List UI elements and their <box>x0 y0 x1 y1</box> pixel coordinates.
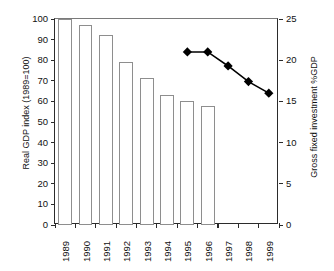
x-tick-label: 1997 <box>223 232 234 271</box>
line-series <box>55 19 279 225</box>
tick-label: 0 <box>286 219 316 230</box>
tick-label: 25 <box>286 13 316 24</box>
tick-mark <box>279 225 283 226</box>
tick-label: 30 <box>18 157 48 168</box>
series-line <box>187 52 268 93</box>
x-tick-label: 1994 <box>162 232 173 271</box>
chart-figure: Real GDP index (1989=100) Gross fixed in… <box>0 0 334 271</box>
tick-label: 50 <box>18 116 48 127</box>
tick-mark <box>279 101 283 102</box>
tick-label: 0 <box>18 219 48 230</box>
x-tick-label: 1999 <box>263 232 274 271</box>
tick-label: 40 <box>18 137 48 148</box>
x-tick-label: 1992 <box>121 232 132 271</box>
tick-label: 60 <box>18 95 48 106</box>
tick-mark <box>279 60 283 61</box>
tick-label: 5 <box>286 178 316 189</box>
x-tick-label: 1995 <box>182 232 193 271</box>
tick-label: 100 <box>18 13 48 24</box>
x-tick-label: 1996 <box>202 232 213 271</box>
tick-label: 80 <box>18 54 48 65</box>
plot-area: 0102030405060708090100 0510152025 198919… <box>54 18 278 224</box>
tick-label: 20 <box>18 178 48 189</box>
x-tick-label: 1998 <box>243 232 254 271</box>
tick-label: 70 <box>18 75 48 86</box>
diamond-marker <box>264 89 273 98</box>
tick-mark <box>279 19 283 20</box>
tick-label: 90 <box>18 34 48 45</box>
diamond-marker <box>183 47 192 56</box>
x-tick-label: 1990 <box>80 232 91 271</box>
diamond-marker <box>203 47 212 56</box>
tick-label: 20 <box>286 54 316 65</box>
x-tick-label: 1991 <box>100 232 111 271</box>
tick-label: 15 <box>286 95 316 106</box>
tick-mark <box>279 183 283 184</box>
tick-mark <box>279 142 283 143</box>
tick-label: 10 <box>286 137 316 148</box>
x-tick-label: 1989 <box>60 232 71 271</box>
x-tick-label: 1993 <box>141 232 152 271</box>
tick-label: 10 <box>18 198 48 209</box>
